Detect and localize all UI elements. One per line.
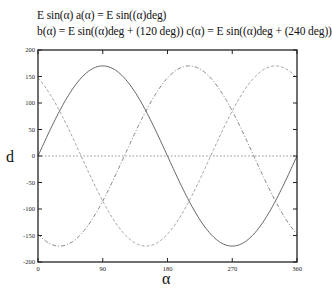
y-tick-label: -100 bbox=[23, 205, 35, 212]
x-tick-label: 270 bbox=[227, 265, 237, 272]
x-axis-label: α bbox=[162, 270, 171, 287]
x-tick-label: 90 bbox=[100, 265, 107, 272]
plot-curves bbox=[38, 66, 297, 246]
y-tick-label: 150 bbox=[25, 73, 35, 80]
y-tick-label: 0 bbox=[32, 152, 35, 159]
x-tick-label: 0 bbox=[36, 265, 39, 272]
y-tick-label: -200 bbox=[23, 258, 35, 265]
y-tick-label: 50 bbox=[29, 126, 36, 133]
y-tick-label: 100 bbox=[25, 99, 35, 106]
x-tick-label: 360 bbox=[292, 265, 302, 272]
y-axis-label: d bbox=[6, 148, 14, 165]
y-tick-label: 200 bbox=[25, 46, 35, 53]
y-tick-label: -50 bbox=[26, 179, 35, 186]
y-tick-label: -150 bbox=[23, 232, 35, 239]
